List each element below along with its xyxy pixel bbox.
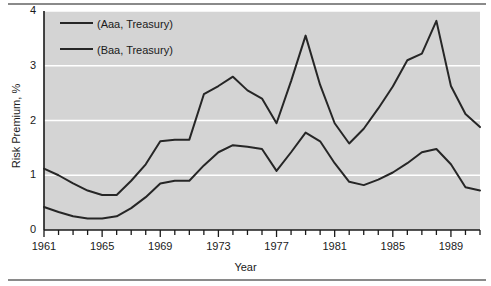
legend-entry-aaa-label: (Aaa, Treasury) bbox=[97, 18, 173, 30]
x-tick-label-1965: 1965 bbox=[82, 240, 122, 252]
x-tick-label-1989: 1989 bbox=[431, 240, 471, 252]
y-tick-label-2: 2 bbox=[14, 114, 36, 126]
chart-plot-svg bbox=[0, 0, 491, 286]
figure-canvas: Risk Premium, % Year 01234 1961196519691… bbox=[0, 0, 491, 286]
x-tick-label-1981: 1981 bbox=[315, 240, 355, 252]
y-tick-label-4: 4 bbox=[14, 4, 36, 16]
legend-entry-baa-label: (Baa, Treasury) bbox=[97, 44, 173, 56]
x-tick-label-1985: 1985 bbox=[373, 240, 413, 252]
x-tick-label-1961: 1961 bbox=[24, 240, 64, 252]
x-tick-label-1973: 1973 bbox=[198, 240, 238, 252]
y-tick-label-1: 1 bbox=[14, 168, 36, 180]
x-tick-label-1977: 1977 bbox=[257, 240, 297, 252]
x-tick-label-1969: 1969 bbox=[140, 240, 180, 252]
x-tick-marks bbox=[44, 230, 480, 237]
x-axis-label: Year bbox=[0, 261, 491, 273]
y-tick-label-0: 0 bbox=[14, 223, 36, 235]
y-tick-label-3: 3 bbox=[14, 59, 36, 71]
